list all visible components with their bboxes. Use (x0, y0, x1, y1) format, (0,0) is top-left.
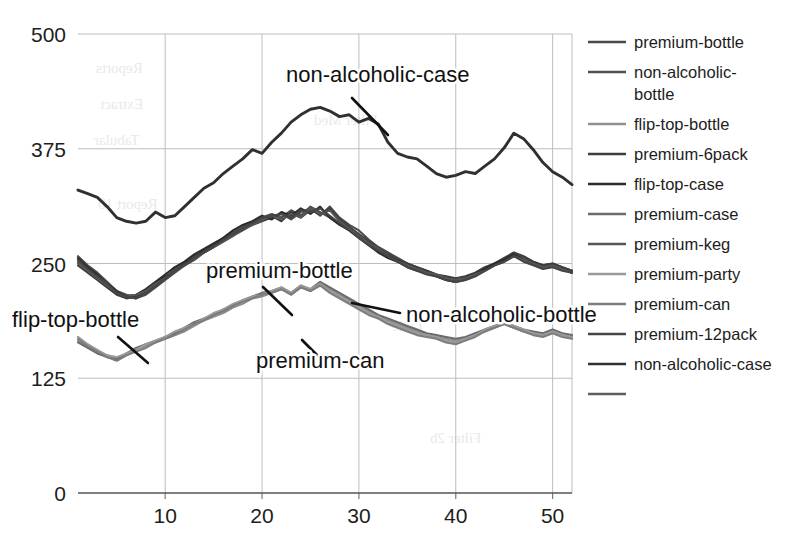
chart-container: ReportsExtractTabularReport 1bFilter Med… (0, 0, 812, 559)
y-tick-label: 0 (54, 482, 66, 505)
x-axis-tick-labels: 1020304050 (153, 504, 564, 527)
series-line-flip-top-case (78, 207, 572, 297)
legend-label-premium-keg[interactable]: premium-keg (634, 235, 730, 253)
x-tick-label: 20 (250, 504, 273, 527)
legend: premium-bottlenon-alcoholic-bottleflip-t… (588, 33, 772, 394)
legend-label-premium-can[interactable]: premium-can (634, 295, 730, 313)
legend-label-premium-party[interactable]: premium-party (634, 265, 741, 283)
plot-annotations: non-alcoholic-casenon-alcoholic-caseprem… (12, 62, 597, 373)
x-tick-label: 10 (153, 504, 176, 527)
y-axis-tick-labels: 0125250375500 (31, 23, 66, 505)
legend-label-premium-bottle[interactable]: premium-bottle (634, 33, 744, 51)
annotation-label: non-alcoholic-bottle (406, 302, 597, 327)
y-tick-label: 500 (31, 23, 66, 46)
legend-label-premium-6pack[interactable]: premium-6pack (634, 145, 748, 163)
legend-label-flip-top-bottle[interactable]: flip-top-bottle (634, 115, 729, 133)
legend-label-premium-12pack[interactable]: premium-12pack (634, 325, 758, 343)
y-tick-label: 125 (31, 367, 66, 390)
y-tick-label: 250 (31, 253, 66, 276)
annotation-leader-line (352, 98, 388, 135)
annotation-label: non-alcoholic-case (286, 62, 469, 87)
legend-label-non-alcoholic-bottle-cont[interactable]: bottle (634, 85, 674, 103)
annotation-label: premium-can (256, 348, 384, 373)
tickmarks (165, 493, 552, 499)
legend-label-non-alcoholic-bottle[interactable]: non-alcoholic- (634, 63, 737, 81)
series-line-non-alcoholic-case (78, 107, 572, 223)
x-tick-label: 40 (444, 504, 467, 527)
legend-label-premium-case[interactable]: premium-case (634, 205, 739, 223)
y-tick-label: 375 (31, 138, 66, 161)
series-line-non-alcoholic-bottle (78, 207, 572, 297)
legend-label-non-alcoholic-case[interactable]: non-alcoholic-case (634, 355, 772, 373)
annotation-label: flip-top-bottle (12, 307, 139, 332)
x-tick-label: 50 (541, 504, 564, 527)
chart-svg: 0125250375500 1020304050 non-alcoholic-c… (0, 0, 812, 559)
legend-label-flip-top-case[interactable]: flip-top-case (634, 175, 724, 193)
annotation-label: premium-bottle (206, 258, 353, 283)
annotation-leader-line (118, 337, 148, 363)
x-tick-label: 30 (347, 504, 370, 527)
